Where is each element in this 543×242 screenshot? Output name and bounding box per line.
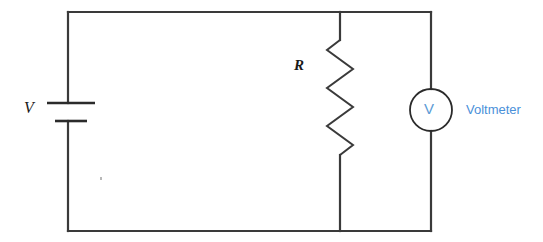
circuit-schematic-svg: [0, 0, 543, 242]
speck-artifact: [100, 177, 102, 180]
source-label: V: [24, 100, 34, 116]
resistor-zigzag-icon: [327, 40, 353, 155]
voltmeter-symbol-label: V: [424, 101, 434, 116]
resistor-label: R: [294, 58, 304, 73]
voltmeter-name-label: Voltmeter: [466, 103, 521, 116]
circuit-diagram: V R V Voltmeter: [0, 0, 543, 242]
